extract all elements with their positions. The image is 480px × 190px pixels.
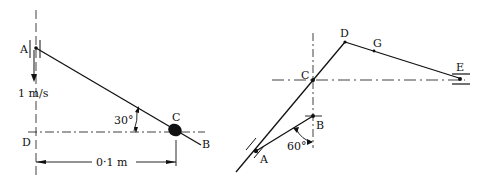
left-mechanism: A 1 m/s 30° C B D 0·1 m bbox=[18, 10, 210, 175]
label-b: B bbox=[202, 138, 210, 151]
velocity-label: 1 m/s bbox=[18, 87, 49, 100]
joint-a bbox=[34, 46, 38, 50]
link-de bbox=[345, 42, 459, 78]
label-a: A bbox=[19, 43, 29, 56]
label-g: G bbox=[373, 37, 382, 50]
angle-label: 30° bbox=[114, 114, 134, 127]
distance-label: 0·1 m bbox=[96, 156, 128, 169]
slider-guide-a bbox=[246, 138, 256, 150]
label-d: D bbox=[340, 27, 349, 40]
label-c: C bbox=[172, 111, 180, 124]
joint-d bbox=[343, 40, 346, 43]
dimension-arrowhead bbox=[36, 160, 46, 164]
diagram-canvas: A 1 m/s 30° C B D 0·1 m bbox=[0, 0, 480, 190]
joint-c bbox=[311, 78, 315, 82]
point-g bbox=[373, 50, 376, 53]
angle-arrowhead bbox=[307, 139, 313, 145]
slider-e bbox=[458, 77, 462, 81]
label-c: C bbox=[301, 69, 309, 82]
label-a: A bbox=[259, 153, 269, 166]
dimension-arrowhead bbox=[166, 160, 176, 164]
right-mechanism: D G C E B A 60° bbox=[236, 27, 470, 172]
label-b: B bbox=[316, 119, 324, 132]
label-e: E bbox=[456, 61, 464, 74]
label-d: D bbox=[22, 136, 31, 149]
joint-a bbox=[254, 149, 258, 153]
angle-label: 60° bbox=[287, 140, 307, 153]
